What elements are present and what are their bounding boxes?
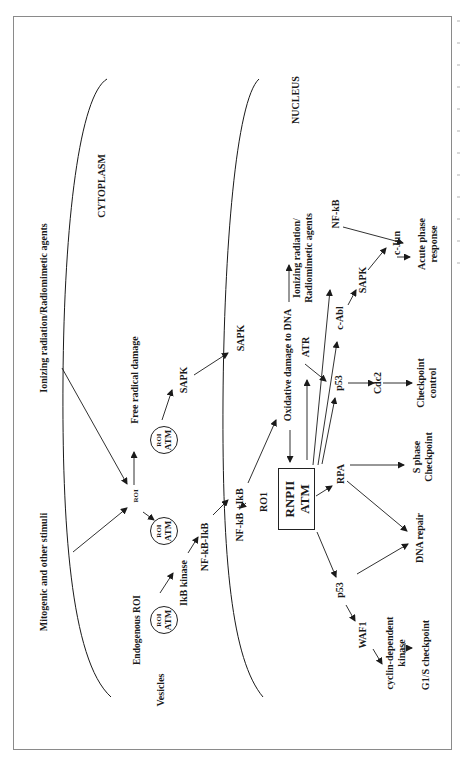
c-abl-label: c-Abl bbox=[334, 306, 346, 329]
waf1-label: WAF1 bbox=[357, 621, 369, 648]
nfkb-label: NF-kB bbox=[330, 200, 342, 229]
sapk-nucleus-entry-label: SAPK bbox=[235, 325, 247, 352]
checkpoint-control-label: Checkpoint control bbox=[415, 358, 439, 407]
p53-lower-label: p53 bbox=[334, 582, 346, 598]
oxidative-damage-label: Oxidative damage to DNA bbox=[282, 309, 294, 422]
atm-text: ATM bbox=[163, 610, 173, 630]
mitogenic-stimuli-label: Mitogenic and other stimuli bbox=[38, 513, 50, 631]
roi-atm-node-upper: ROI ATM bbox=[150, 426, 178, 454]
c-jun-label: c-Jun bbox=[391, 231, 403, 255]
ro1-label: RO1 bbox=[258, 492, 270, 512]
ikb-kinase-label: IkB kinase bbox=[178, 560, 190, 606]
rnpii-text: RNPII bbox=[282, 481, 297, 518]
ionizing-radiation-label: Ionizing radiation/Radiomimetic agents bbox=[38, 223, 50, 392]
nucleus-label: NUCLEUS bbox=[290, 76, 302, 124]
atm-text: ATM bbox=[163, 430, 173, 450]
g1s-checkpoint-label: G1/S checkpoint bbox=[420, 620, 432, 690]
acute-phase-response-label: Acute phase response bbox=[416, 218, 440, 270]
free-radical-damage-label: Free radical damage bbox=[129, 336, 141, 424]
cdc2-label: Cdc2 bbox=[372, 372, 384, 394]
nfkb-ikb-label: NF-kB-IkB bbox=[199, 523, 211, 571]
roi-text: ROI bbox=[155, 524, 163, 537]
nuclear-membrane-curve bbox=[223, 79, 263, 697]
roi-text: ROI bbox=[155, 433, 163, 446]
atm-box-text: ATM bbox=[297, 484, 312, 513]
endogenous-roi-label: Endogenous ROI bbox=[131, 595, 143, 665]
dna-repair-label: DNA repair bbox=[414, 513, 426, 563]
ionizing-radiation-nucleus-label: Ionizing radiation/ Radiomimetic agents bbox=[291, 213, 315, 303]
cyclin-dependent-kinase-label: cyclin-dependent kinase bbox=[384, 617, 408, 690]
rpa-label: RPA bbox=[335, 464, 347, 484]
roi-label: ROI bbox=[132, 489, 140, 502]
roi-atm-node-middle: ROI ATM bbox=[150, 517, 178, 545]
vesicles-label: Vesicles bbox=[155, 674, 167, 707]
sapk-cytoplasm-label: SAPK bbox=[178, 367, 190, 394]
s-phase-checkpoint-label: S phase Checkpoint bbox=[411, 432, 435, 481]
roi-text: ROI bbox=[155, 613, 163, 626]
nfkb-plus-ikb-label: NF-kB +IkB bbox=[234, 488, 246, 541]
rnpii-atm-box: RNPII ATM bbox=[278, 468, 315, 530]
atr-label: ATR bbox=[300, 337, 312, 357]
sapk-nucleus-label: SAPK bbox=[357, 267, 369, 294]
atm-text: ATM bbox=[163, 521, 173, 541]
cytoplasm-label: CYTOPLASM bbox=[96, 154, 108, 218]
roi-atm-node-endogenous: ROI ATM bbox=[150, 606, 178, 634]
p53-upper-label: p53 bbox=[333, 375, 345, 391]
